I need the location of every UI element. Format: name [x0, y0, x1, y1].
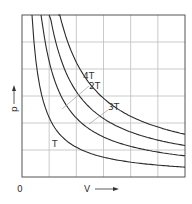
isotherm-3T: [49, 15, 185, 146]
label-2T: 2T: [89, 81, 101, 91]
y-arrowhead-icon: [12, 85, 16, 91]
pv-diagram: T 4T 2T 3T 0 V p: [0, 0, 192, 204]
label-T: T: [51, 139, 58, 149]
label-3T: 3T: [108, 102, 120, 112]
x-axis-label: V: [84, 184, 91, 194]
isotherm-4T: [58, 15, 185, 134]
y-axis-label: p: [9, 106, 19, 112]
origin-label: 0: [17, 184, 23, 194]
isotherm-chart: T 4T 2T 3T 0 V p: [0, 0, 192, 204]
isotherm-2T: [41, 15, 185, 156]
x-arrowhead-icon: [113, 187, 119, 191]
label-4T: 4T: [83, 71, 95, 81]
construction-line: [89, 110, 108, 124]
